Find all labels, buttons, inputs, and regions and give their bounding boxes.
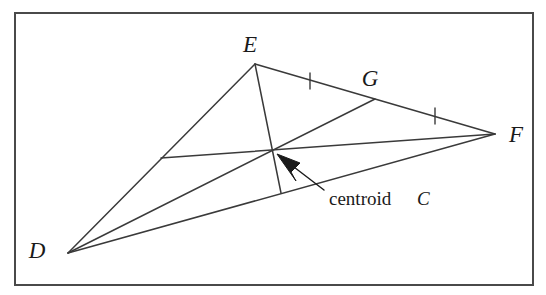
vertex-label-D: D bbox=[28, 238, 46, 263]
centroid-arrow-head-icon bbox=[277, 154, 300, 181]
vertex-label-F: F bbox=[508, 122, 524, 147]
geometry-diagram: D E F G centroid C bbox=[0, 0, 546, 295]
midpoint-label-G: G bbox=[362, 66, 379, 91]
vertex-label-E: E bbox=[242, 32, 257, 57]
median-D-to-G bbox=[68, 99, 375, 253]
figure-canvas: D E F G centroid C bbox=[0, 0, 546, 295]
centroid-annotation-label: centroid bbox=[329, 188, 392, 209]
centroid-annotation-symbol: C bbox=[417, 188, 430, 209]
median-E-to-DF bbox=[255, 64, 281, 193]
median-F-to-DE bbox=[161, 134, 495, 158]
